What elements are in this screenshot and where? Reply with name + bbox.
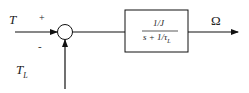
block-numerator: 1/J <box>153 18 164 28</box>
torque-plus-sign: + <box>39 12 45 23</box>
block-denominator: s + 1/τL <box>143 32 171 44</box>
block-denominator-subscript: L <box>167 38 170 44</box>
output-omega-label: Ω <box>211 13 221 29</box>
load-torque-subscript: L <box>23 71 27 80</box>
summing-junction <box>58 25 73 40</box>
block-denominator-main: s + 1/τ <box>143 32 167 42</box>
load-minus-sign: - <box>38 40 42 52</box>
load-torque-label: TL <box>16 62 28 80</box>
torque-label: T <box>9 12 16 28</box>
